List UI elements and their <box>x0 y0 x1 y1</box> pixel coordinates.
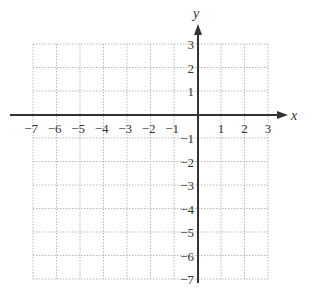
coordinate-plane: x y −7−6−5−4−3−2−1123 321−1−2−3−4−5−6−7 <box>0 0 313 303</box>
x-tick-label: −7 <box>24 121 38 136</box>
y-tick-labels: 321−1−2−3−4−5−6−7 <box>180 37 194 287</box>
axes <box>10 24 288 283</box>
y-axis-arrow-icon <box>194 24 202 35</box>
x-axis-label: x <box>290 108 298 123</box>
y-tick-label: 1 <box>188 84 195 99</box>
x-tick-label: −4 <box>95 121 109 136</box>
x-tick-label: 2 <box>241 121 248 136</box>
x-tick-label: 3 <box>265 121 272 136</box>
y-axis-label: y <box>191 6 200 21</box>
y-tick-label: −7 <box>180 272 194 287</box>
x-tick-labels: −7−6−5−4−3−2−1123 <box>24 121 271 136</box>
y-tick-label: 3 <box>188 37 195 52</box>
y-tick-label: 2 <box>188 61 195 76</box>
y-tick-label: −1 <box>180 131 194 146</box>
y-tick-label: −2 <box>180 155 194 170</box>
x-tick-label: −5 <box>71 121 85 136</box>
y-tick-label: −3 <box>180 178 194 193</box>
y-tick-label: −5 <box>180 225 194 240</box>
x-axis-arrow-icon <box>277 111 288 119</box>
y-tick-label: −4 <box>180 202 194 217</box>
grid-lines <box>33 44 268 279</box>
x-tick-label: 1 <box>218 121 225 136</box>
x-tick-label: −1 <box>165 121 179 136</box>
y-tick-label: −6 <box>180 249 194 264</box>
x-tick-label: −2 <box>142 121 156 136</box>
x-tick-label: −3 <box>118 121 132 136</box>
x-tick-label: −6 <box>48 121 62 136</box>
